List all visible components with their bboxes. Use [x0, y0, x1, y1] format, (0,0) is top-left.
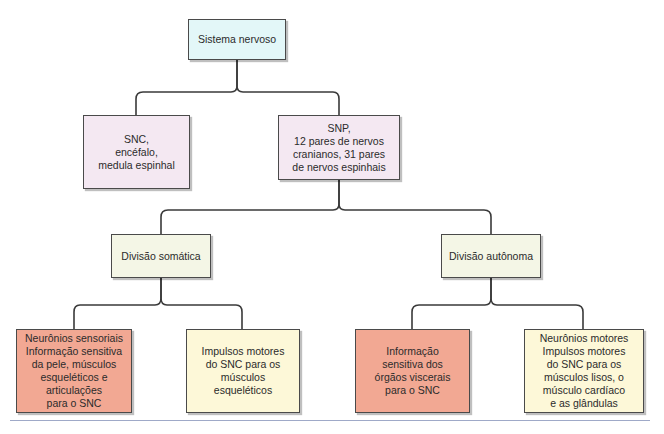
node-autonomic-sensory: Informação sensitiva dos órgãos viscerai… — [355, 329, 470, 413]
node-label: Divisão somática — [121, 250, 200, 263]
node-somatic-sensory: Neurônios sensoriais Informação sensitiv… — [16, 329, 132, 413]
node-label: Divisão autônoma — [449, 250, 533, 263]
node-label: Sistema nervoso — [198, 33, 276, 46]
node-label: Informação sensitiva dos órgãos viscerai… — [375, 345, 451, 397]
node-somatic-motor: Impulsos motores do SNC para os músculos… — [186, 329, 300, 413]
node-label: SNP, 12 pares de nervos cranianos, 31 pa… — [292, 122, 385, 174]
node-snc: SNC, encéfalo, medula espinhal — [83, 115, 190, 189]
node-autonomic-motor: Neurônios motores Impulsos motores do SN… — [524, 329, 644, 413]
node-label: Neurônios motores Impulsos motores do SN… — [540, 332, 629, 410]
node-divisao-somatica: Divisão somática — [111, 234, 211, 278]
node-label: Impulsos motores do SNC para os músculos… — [191, 345, 295, 397]
node-label: Neurônios sensoriais Informação sensitiv… — [25, 332, 123, 410]
node-label: SNC, encéfalo, medula espinhal — [98, 133, 174, 172]
node-sistema-nervoso: Sistema nervoso — [188, 19, 286, 60]
node-divisao-autonoma: Divisão autônoma — [441, 234, 541, 278]
node-snp: SNP, 12 pares de nervos cranianos, 31 pa… — [278, 115, 400, 180]
footer-divider — [10, 420, 650, 421]
